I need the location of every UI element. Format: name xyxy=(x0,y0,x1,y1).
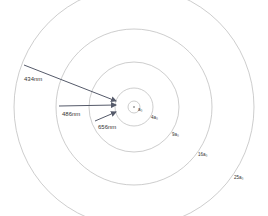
nucleus xyxy=(133,106,135,108)
transition-arrow xyxy=(95,112,116,121)
atom-diagram xyxy=(0,0,268,216)
wavelength-label: 486nm xyxy=(62,111,80,117)
orbit-radius-label: 25a₀ xyxy=(234,175,243,180)
wavelength-label: 434nm xyxy=(24,76,42,82)
orbit-radius-label: 16a₀ xyxy=(198,152,207,157)
wavelength-label: 656nm xyxy=(98,124,116,130)
orbit-radius-label: 9a₀ xyxy=(172,132,179,137)
transition-arrow xyxy=(59,105,116,106)
transition-arrow xyxy=(24,65,116,101)
orbit-n5 xyxy=(14,0,254,216)
orbit-radius-label: 4a₀ xyxy=(151,115,158,120)
orbit-radius-label: a₀ xyxy=(138,107,142,112)
